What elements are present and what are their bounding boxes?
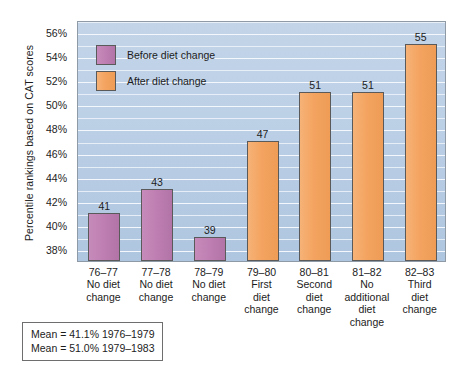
x-axis-label-line: Second: [288, 278, 341, 290]
bar-value-label: 55: [401, 31, 441, 43]
x-axis-category-label: 82–83Thirddietchange: [393, 266, 446, 316]
bar: [405, 44, 437, 261]
x-axis-category-label: 78–79No dietchange: [182, 266, 235, 303]
chart-legend: Before diet changeAfter diet change: [96, 42, 215, 94]
bar: [299, 92, 331, 261]
x-axis-label-line: additional: [341, 291, 394, 303]
mean-note-line-2: Mean = 51.0% 1979–1983: [31, 341, 154, 355]
x-axis-label-line: Third: [393, 278, 446, 290]
mean-note-line-1: Mean = 41.1% 1976–1979: [31, 327, 154, 341]
x-axis-label-line: change: [130, 291, 183, 303]
y-axis-tick-labels: 38%40%42%44%46%48%50%52%54%56%: [26, 21, 71, 262]
y-axis-tick-label: 52%: [46, 75, 67, 87]
y-axis-tick-label: 42%: [46, 196, 67, 208]
x-axis-label-line: change: [341, 316, 394, 328]
y-axis-tick-label: 38%: [46, 244, 67, 256]
x-axis-category-label: 79–80Firstdietchange: [235, 266, 288, 316]
bar-value-label: 41: [84, 200, 124, 212]
bar: [88, 213, 120, 261]
y-axis-tick-label: 40%: [46, 220, 67, 232]
x-axis-label-line: diet: [393, 291, 446, 303]
x-axis-category-label: 81–82Noadditionaldietchange: [341, 266, 394, 328]
x-axis-label-line: No diet: [130, 278, 183, 290]
x-axis-label-line: 79–80: [235, 266, 288, 278]
x-axis-label-line: 77–78: [130, 266, 183, 278]
x-axis-label-line: change: [393, 303, 446, 315]
chart-figure: Percentile rankings based on CAT scores …: [0, 0, 464, 365]
x-axis-label-line: First: [235, 278, 288, 290]
plot-area: 41433947515155 Before diet changeAfter d…: [77, 21, 446, 262]
x-axis-label-line: No: [341, 278, 394, 290]
legend-label: After diet change: [127, 75, 206, 87]
legend-swatch-after: [96, 71, 116, 91]
legend-swatch-before: [96, 45, 116, 65]
y-axis-tick-label: 56%: [46, 27, 67, 39]
x-axis-label-line: change: [182, 291, 235, 303]
x-axis-label-line: 76–77: [77, 266, 130, 278]
bar: [247, 141, 279, 262]
x-axis-label-line: No diet: [77, 278, 130, 290]
x-axis-category-label: 77–78No dietchange: [130, 266, 183, 303]
x-axis-label-line: 82–83: [393, 266, 446, 278]
bar-value-label: 39: [190, 224, 230, 236]
x-axis-label-line: change: [77, 291, 130, 303]
mean-note-box: Mean = 41.1% 1976–1979 Mean = 51.0% 1979…: [22, 322, 163, 361]
x-axis-label-line: diet: [341, 303, 394, 315]
legend-label: Before diet change: [127, 49, 215, 61]
x-axis-category-label: 80–81Seconddietchange: [288, 266, 341, 316]
x-axis-label-line: diet: [288, 291, 341, 303]
bar: [352, 92, 384, 261]
bar-value-label: 51: [295, 79, 335, 91]
x-axis-label-line: No diet: [182, 278, 235, 290]
y-axis-tick-label: 50%: [46, 99, 67, 111]
bar: [141, 189, 173, 261]
x-axis-label-line: 80–81: [288, 266, 341, 278]
legend-item: Before diet change: [96, 42, 215, 68]
x-axis-label-line: change: [235, 303, 288, 315]
x-axis-label-line: 78–79: [182, 266, 235, 278]
x-axis-category-labels: 76–77No dietchange77–78No dietchange78–7…: [77, 266, 446, 326]
y-axis-tick-label: 44%: [46, 172, 67, 184]
x-axis-category-label: 76–77No dietchange: [77, 266, 130, 303]
bar-value-label: 51: [348, 79, 388, 91]
bar-value-label: 43: [137, 176, 177, 188]
y-axis-tick-label: 46%: [46, 148, 67, 160]
x-axis-label-line: 81–82: [341, 266, 394, 278]
bar-value-label: 47: [243, 128, 283, 140]
x-axis-label-line: diet: [235, 291, 288, 303]
y-axis-tick-label: 54%: [46, 51, 67, 63]
y-axis-tick-label: 48%: [46, 123, 67, 135]
legend-item: After diet change: [96, 68, 215, 94]
x-axis-label-line: change: [288, 303, 341, 315]
bar: [194, 237, 226, 261]
